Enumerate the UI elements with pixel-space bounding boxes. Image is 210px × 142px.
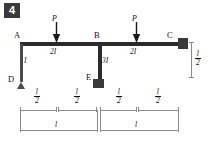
dim-numerator: l	[116, 88, 122, 96]
dim-numerator: l	[195, 50, 201, 58]
fixed-support-E	[93, 79, 104, 88]
dim-tick-span-C	[178, 127, 179, 132]
node-label-C: C	[167, 30, 173, 40]
dim-tick-P1-left	[56, 107, 57, 112]
dim-label-P1-B: l 2	[74, 88, 80, 104]
dim-tick-P1-right	[58, 107, 59, 112]
dim-tick-P2-left	[136, 107, 137, 112]
dim-numerator: l	[34, 88, 40, 96]
dim-vertical-line	[191, 42, 192, 77]
figure-number-badge: 4	[4, 3, 20, 18]
dim-line-span-AB	[20, 130, 97, 131]
dim-vertical-tick-top	[189, 42, 194, 43]
dim-label-span-BC: l	[135, 120, 137, 129]
load-arrow-P2-icon	[131, 22, 142, 43]
dim-label-B-P2: l 2	[116, 88, 122, 104]
dim-label-P2-C: l 2	[155, 88, 161, 104]
dim-line-P2-C	[138, 110, 178, 111]
column-member-AD	[20, 44, 23, 82]
dim-numerator: l	[74, 88, 80, 96]
dim-tick-span-B-left	[97, 127, 98, 132]
dim-denominator: 2	[74, 97, 80, 105]
fixed-support-C	[178, 38, 188, 49]
dim-tick-P2-right	[138, 107, 139, 112]
dim-vertical-tick-bottom	[189, 77, 194, 78]
load-arrow-P1-icon	[51, 22, 62, 43]
dim-label-col-height: l 2	[195, 50, 201, 66]
dim-denominator: 2	[116, 97, 122, 105]
stiffness-label-BE: 3I	[102, 56, 108, 65]
node-label-A: A	[14, 30, 20, 40]
dim-line-A-P1	[20, 110, 56, 111]
stiffness-label-AD: I	[24, 56, 27, 65]
dim-denominator: 2	[195, 59, 201, 67]
dim-denominator: 2	[155, 97, 161, 105]
node-label-B: B	[94, 30, 100, 40]
pin-support-D	[17, 82, 25, 89]
dim-tick-span-B-right	[100, 127, 101, 132]
stiffness-label-BC: 2I	[130, 47, 136, 56]
node-label-E: E	[86, 72, 91, 82]
stiffness-label-AB: 2I	[50, 47, 56, 56]
dim-label-A-P1: l 2	[34, 88, 40, 104]
dim-denominator: 2	[34, 97, 40, 105]
dim-line-B-P2	[100, 110, 136, 111]
dim-line-P1-B	[58, 110, 96, 111]
node-label-D: D	[8, 74, 14, 84]
dim-numerator: l	[155, 88, 161, 96]
dim-label-span-AB: l	[55, 120, 57, 129]
dim-tick-span-A	[20, 127, 21, 132]
figure-canvas: 4 A B C D E 2I 2I I 3I P P l 2	[0, 0, 210, 142]
dim-line-span-BC	[100, 130, 178, 131]
